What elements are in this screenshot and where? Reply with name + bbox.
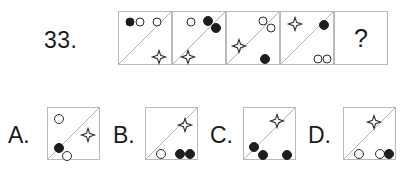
diagonal-divider bbox=[227, 12, 279, 64]
filled-circle-icon bbox=[384, 149, 394, 159]
open-circle-icon bbox=[136, 18, 145, 27]
four-point-star-icon bbox=[271, 115, 284, 128]
filled-circle-icon bbox=[249, 142, 259, 152]
question-number: 33. bbox=[44, 29, 77, 52]
sequence-cell-answer[interactable]: ? bbox=[334, 11, 388, 65]
option-a[interactable] bbox=[47, 107, 100, 160]
four-point-star-icon bbox=[153, 51, 166, 64]
open-circle-icon bbox=[54, 114, 64, 124]
question-mark: ? bbox=[354, 26, 368, 51]
option-b-label: B. bbox=[113, 124, 135, 147]
sequence-cell-2 bbox=[172, 11, 226, 65]
puzzle-stage: 33. ? A.B.C.D. bbox=[0, 0, 419, 175]
filled-circle-icon bbox=[126, 18, 135, 27]
four-point-star-icon bbox=[82, 129, 95, 142]
open-circle-icon bbox=[62, 151, 72, 161]
four-point-star-icon bbox=[182, 51, 195, 64]
sequence-cell-4 bbox=[280, 11, 334, 65]
filled-circle-icon bbox=[185, 149, 195, 159]
filled-circle-icon bbox=[260, 54, 270, 64]
open-circle-icon bbox=[314, 55, 323, 64]
sequence-cell-1 bbox=[118, 11, 172, 65]
option-d-label: D. bbox=[308, 124, 331, 147]
option-d[interactable] bbox=[343, 107, 396, 160]
open-circle-icon bbox=[153, 18, 162, 27]
open-circle-icon bbox=[259, 17, 268, 26]
open-circle-icon bbox=[354, 149, 364, 159]
filled-circle-icon bbox=[258, 150, 268, 160]
four-point-star-icon bbox=[289, 18, 302, 31]
option-b[interactable] bbox=[145, 107, 198, 160]
option-c-label: C. bbox=[210, 124, 233, 147]
open-circle-icon bbox=[323, 55, 332, 64]
filled-circle-icon bbox=[282, 150, 292, 160]
open-circle-icon bbox=[187, 18, 196, 27]
filled-circle-icon bbox=[319, 20, 329, 30]
option-c[interactable] bbox=[243, 107, 296, 160]
option-a-label: A. bbox=[8, 124, 30, 147]
four-point-star-icon bbox=[233, 40, 246, 53]
sequence-cell-3 bbox=[226, 11, 280, 65]
filled-circle-icon bbox=[175, 149, 185, 159]
four-point-star-icon bbox=[179, 119, 192, 132]
four-point-star-icon bbox=[368, 116, 381, 129]
open-circle-icon bbox=[267, 24, 276, 33]
open-circle-icon bbox=[156, 149, 166, 159]
filled-circle-icon bbox=[211, 23, 221, 33]
